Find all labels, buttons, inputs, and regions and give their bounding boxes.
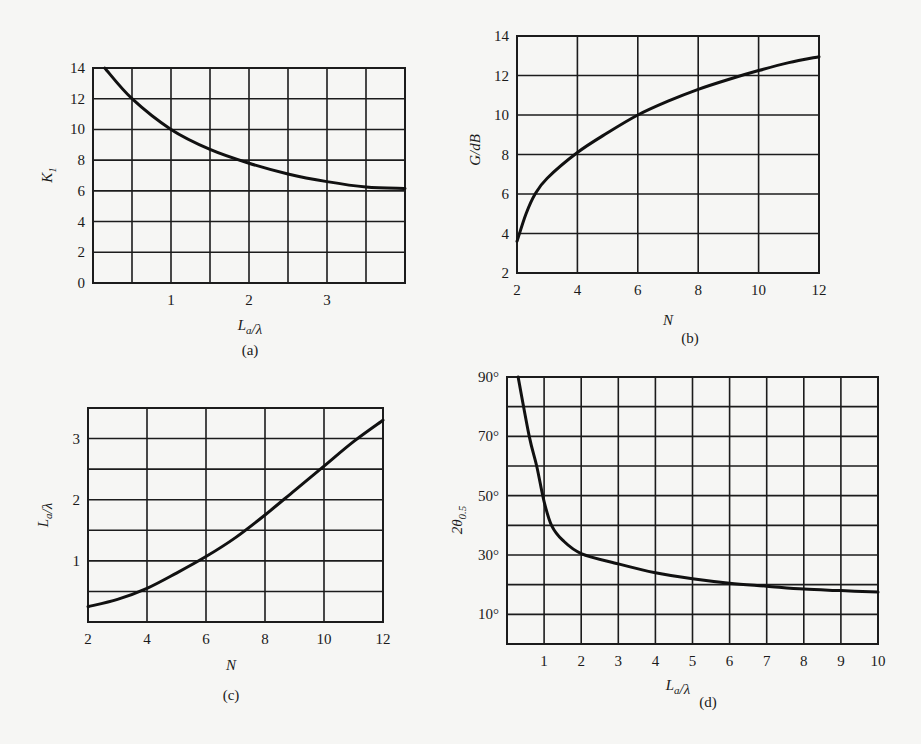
y-tick-label: 12 xyxy=(70,91,85,107)
grid-lines xyxy=(88,408,383,622)
panel-caption: (c) xyxy=(223,687,240,704)
data-curve xyxy=(518,377,878,592)
x-tick-label: 5 xyxy=(689,653,697,669)
y-tick-label: 14 xyxy=(70,60,86,76)
x-axis-label: La/λ xyxy=(237,317,263,337)
x-tick-label: 3 xyxy=(615,653,623,669)
data-curve xyxy=(517,57,819,242)
y-tick-label: 70° xyxy=(478,428,499,444)
x-tick-label: 6 xyxy=(726,653,734,669)
data-curve xyxy=(88,420,383,606)
y-tick-label: 4 xyxy=(78,214,86,230)
x-tick-label: 8 xyxy=(694,282,702,298)
y-tick-label: 30° xyxy=(478,547,499,563)
y-tick-label: 10 xyxy=(70,121,85,137)
figure-canvas: 12302468101214La/λK1(a)24681012246810121… xyxy=(0,0,921,744)
y-tick-label: 90° xyxy=(478,369,499,385)
x-axis-label: N xyxy=(225,657,237,673)
y-axis-label: 2θ0.5 xyxy=(449,505,468,534)
y-tick-label: 14 xyxy=(494,28,510,44)
y-axis-label: K1 xyxy=(39,167,58,184)
x-tick-label: 6 xyxy=(634,282,642,298)
x-tick-label: 2 xyxy=(513,282,521,298)
data-curve xyxy=(105,68,405,189)
y-tick-label: 2 xyxy=(73,492,81,508)
grid-lines xyxy=(507,377,878,644)
y-tick-label: 3 xyxy=(73,431,81,447)
x-tick-label: 8 xyxy=(261,631,269,647)
y-tick-label: 1 xyxy=(73,553,81,569)
y-tick-label: 0 xyxy=(78,275,86,291)
x-tick-label: 1 xyxy=(540,653,548,669)
chart-panel-c: 24681012123NLa/λ(c) xyxy=(35,408,391,704)
x-tick-label: 2 xyxy=(84,631,92,647)
x-axis-label: La/λ xyxy=(665,677,691,697)
chart-panel-a: 12302468101214La/λK1(a) xyxy=(39,60,405,359)
x-tick-label: 8 xyxy=(800,653,808,669)
x-tick-label: 3 xyxy=(323,292,331,308)
x-tick-label: 2 xyxy=(245,292,253,308)
x-axis-label: N xyxy=(662,312,674,328)
x-tick-label: 4 xyxy=(143,631,151,647)
x-tick-label: 10 xyxy=(751,282,766,298)
y-tick-label: 10° xyxy=(478,606,499,622)
x-tick-label: 10 xyxy=(871,653,886,669)
y-tick-label: 12 xyxy=(494,68,509,84)
grid-lines xyxy=(93,68,405,283)
grid-lines xyxy=(517,36,819,273)
plot-frame xyxy=(88,408,383,622)
y-tick-label: 6 xyxy=(502,186,510,202)
x-tick-label: 6 xyxy=(202,631,210,647)
chart-panel-d: 1234567891010°30°50°70°90°La/λ2θ0.5(d) xyxy=(449,369,886,711)
y-tick-label: 10 xyxy=(494,107,509,123)
x-tick-label: 7 xyxy=(763,653,771,669)
y-tick-label: 4 xyxy=(502,226,510,242)
chart-panel-b: 246810122468101214NG/dB(b) xyxy=(467,28,827,347)
panel-caption: (b) xyxy=(681,330,699,347)
panel-caption: (d) xyxy=(699,694,717,711)
y-axis-label: La/λ xyxy=(35,502,55,528)
y-tick-label: 2 xyxy=(78,244,86,260)
y-axis-label: G/dB xyxy=(467,134,483,166)
y-tick-label: 50° xyxy=(478,488,499,504)
panel-caption: (a) xyxy=(242,342,259,359)
x-tick-label: 4 xyxy=(574,282,582,298)
x-tick-label: 12 xyxy=(812,282,827,298)
x-tick-label: 2 xyxy=(577,653,585,669)
x-tick-label: 9 xyxy=(837,653,845,669)
x-tick-label: 1 xyxy=(167,292,175,308)
x-tick-label: 10 xyxy=(317,631,332,647)
x-tick-label: 4 xyxy=(652,653,660,669)
y-tick-label: 6 xyxy=(78,183,86,199)
y-tick-label: 8 xyxy=(502,147,510,163)
y-tick-label: 2 xyxy=(502,265,510,281)
y-tick-label: 8 xyxy=(78,152,86,168)
x-tick-label: 12 xyxy=(376,631,391,647)
